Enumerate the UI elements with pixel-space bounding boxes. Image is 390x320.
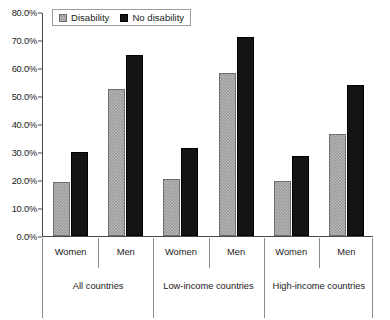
bar-disability (219, 73, 236, 236)
category-label-women: Women (43, 238, 98, 268)
bar-chart: 0.0%10.0%20.0%30.0%40.0%50.0%60.0%70.0%8… (0, 0, 390, 320)
y-tick-label: 20.0% (12, 176, 37, 186)
category-separator (319, 238, 320, 268)
bar-no-disability (181, 148, 198, 236)
bar-group (98, 13, 153, 236)
group-separator (264, 268, 265, 318)
bar-disability (274, 181, 291, 236)
category-separator (264, 238, 265, 268)
bar-group (264, 13, 319, 236)
category-label-men: Men (209, 238, 264, 268)
bars-layer (43, 13, 373, 236)
y-tick-label: 0.0% (17, 232, 37, 242)
y-tick-label: 80.0% (12, 8, 37, 18)
bar-no-disability (237, 37, 254, 236)
group-label: High-income countries (264, 268, 374, 318)
y-tick-label: 70.0% (12, 36, 37, 46)
group-separator (153, 268, 154, 318)
category-axis-band: WomenMenWomenMenWomenMen (42, 238, 373, 268)
category-separator (153, 238, 154, 268)
bar-group (209, 13, 264, 236)
y-tick-label: 30.0% (12, 148, 37, 158)
y-tick-label: 60.0% (12, 64, 37, 74)
category-label-women: Women (264, 238, 319, 268)
plot-area (42, 13, 373, 237)
y-tick-label: 50.0% (12, 92, 37, 102)
bar-no-disability (126, 55, 143, 236)
legend-item-no-disability: No disability (120, 12, 184, 23)
no-disability-swatch-icon (120, 14, 128, 22)
bar-disability (163, 179, 180, 236)
category-separator (98, 238, 99, 268)
category-label-women: Women (153, 238, 208, 268)
y-tick-label: 10.0% (12, 204, 37, 214)
category-label-men: Men (319, 238, 374, 268)
group-label: Low-income countries (153, 268, 263, 318)
bar-no-disability (347, 85, 364, 236)
legend-label-disability: Disability (71, 12, 109, 23)
bar-group (153, 13, 208, 236)
category-separator (209, 238, 210, 268)
bar-no-disability (71, 152, 88, 236)
bar-disability (329, 134, 346, 236)
legend-label-no-disability: No disability (132, 12, 184, 23)
bar-disability (53, 182, 70, 236)
bar-group (43, 13, 98, 236)
legend-item-disability: Disability (59, 12, 109, 23)
chart-legend: Disability No disability (52, 9, 191, 26)
category-label-men: Men (98, 238, 153, 268)
group-label: All countries (43, 268, 153, 318)
group-axis-band: All countriesLow-income countriesHigh-in… (42, 268, 373, 318)
disability-swatch-icon (59, 14, 67, 22)
y-axis: 0.0%10.0%20.0%30.0%40.0%50.0%60.0%70.0%8… (0, 0, 42, 320)
y-tick-label: 40.0% (12, 120, 37, 130)
bar-no-disability (292, 156, 309, 236)
bar-disability (108, 89, 125, 236)
bar-group (319, 13, 374, 236)
